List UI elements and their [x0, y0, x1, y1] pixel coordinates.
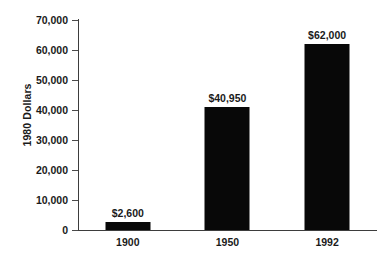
y-tick-label-60000: 60,000	[36, 44, 68, 56]
y-tick-label-70000: 70,000	[36, 14, 68, 26]
bar-1992	[305, 44, 350, 230]
x-label-1992: 1992	[277, 236, 377, 248]
bar-value-1992: $62,000	[308, 29, 346, 41]
y-tick-label-40000: 40,000	[36, 104, 68, 116]
plot-area: $2,600 $40,950 $62,000	[78, 20, 377, 230]
y-tick-label-30000: 30,000	[36, 134, 68, 146]
bar-group-1992: $62,000	[277, 20, 377, 230]
y-axis-ticks: 0 10,000 20,000 30,000 40,000 50,000 60,…	[0, 0, 78, 265]
y-tick-label-50000: 50,000	[36, 74, 68, 86]
bar-1950	[205, 107, 250, 230]
x-label-1900: 1900	[78, 236, 178, 248]
bar-chart: 1980 Dollars 0 10,000 20,000 30,000 40,0…	[0, 0, 383, 265]
y-tick-label-0: 0	[62, 224, 68, 236]
x-axis-line	[78, 230, 377, 231]
bar-group-1900: $2,600	[78, 20, 178, 230]
bar-value-1950: $40,950	[208, 92, 246, 104]
bar-1900	[105, 222, 150, 230]
x-axis-labels: 1900 1950 1992	[78, 236, 377, 254]
y-tick-label-10000: 10,000	[36, 194, 68, 206]
bar-value-1900: $2,600	[112, 207, 144, 219]
x-label-1950: 1950	[178, 236, 278, 248]
y-tick-label-20000: 20,000	[36, 164, 68, 176]
bar-group-1950: $40,950	[178, 20, 278, 230]
